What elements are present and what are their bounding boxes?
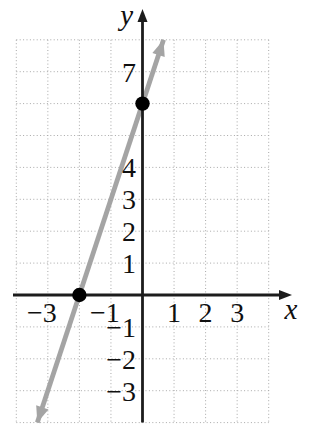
point-marker <box>72 288 86 302</box>
line-graph-svg: −3−112374321−1−2−3xy <box>0 0 312 437</box>
x-tick-label: 1 <box>167 297 181 328</box>
x-tick-label: 3 <box>230 297 244 328</box>
point-marker <box>135 96 149 110</box>
y-axis-label: y <box>117 0 133 31</box>
line-arrowhead-down-icon <box>36 405 48 422</box>
y-axis-arrowhead-icon <box>138 9 148 22</box>
y-tick-label: 2 <box>122 216 136 247</box>
y-tick-label: −1 <box>106 312 136 343</box>
y-tick-label: −2 <box>106 344 136 375</box>
x-axis-label: x <box>284 293 298 325</box>
y-tick-label: 3 <box>122 184 136 215</box>
y-tick-label: 4 <box>122 152 136 183</box>
x-tick-label: 2 <box>199 297 213 328</box>
y-tick-label: −3 <box>106 376 136 407</box>
line-arrowhead-up-icon <box>152 40 164 57</box>
y-tick-label: 7 <box>122 57 136 88</box>
y-tick-label: 1 <box>122 248 136 279</box>
coordinate-plane-figure: −3−112374321−1−2−3xy <box>0 0 312 437</box>
x-tick-label: −3 <box>27 297 57 328</box>
